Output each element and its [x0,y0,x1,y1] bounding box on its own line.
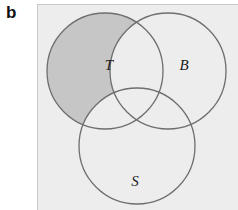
venn-panel: T B S [37,4,238,210]
venn-svg: T B S [38,5,238,210]
venn-diagram-figure: b T B S [0,0,238,210]
set-label-b: B [179,57,188,73]
panel-letter-label: b [6,4,16,21]
set-label-s: S [131,173,139,189]
